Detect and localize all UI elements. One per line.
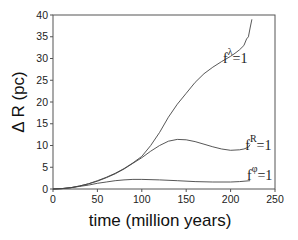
y-tick-label: 15 xyxy=(36,117,48,129)
curve-label-2: fφ=1 xyxy=(247,163,272,183)
y-tick-label: 5 xyxy=(42,161,48,173)
x-tick-label: 250 xyxy=(266,193,284,205)
curve-label-0: fλ=1 xyxy=(223,46,247,66)
y-axis-title: Δ R (pc) xyxy=(9,71,28,132)
y-tick-label: 25 xyxy=(36,74,48,86)
curve-series-0 xyxy=(53,19,252,189)
plot-border xyxy=(53,15,275,189)
y-axis-ticks: 0510152025303540 xyxy=(36,9,53,195)
x-tick-label: 0 xyxy=(50,193,56,205)
y-tick-label: 20 xyxy=(36,96,48,108)
curve-label-1: fR=1 xyxy=(245,133,271,153)
y-tick-label: 10 xyxy=(36,139,48,151)
x-tick-label: 200 xyxy=(222,193,240,205)
line-chart: 0510152025303540 050100150200250 fλ=1fR=… xyxy=(0,0,298,240)
curve-labels: fλ=1fR=1fφ=1 xyxy=(223,46,272,183)
curve-series-2 xyxy=(53,179,250,189)
x-tick-label: 50 xyxy=(92,193,104,205)
x-axis-title: time (million years) xyxy=(89,211,232,230)
y-tick-label: 30 xyxy=(36,52,48,64)
x-tick-label: 150 xyxy=(177,193,195,205)
y-tick-label: 35 xyxy=(36,30,48,42)
y-tick-label: 40 xyxy=(36,9,48,21)
plot-frame xyxy=(53,15,275,189)
y-tick-label: 0 xyxy=(42,183,48,195)
x-tick-label: 100 xyxy=(133,193,151,205)
plot-curves xyxy=(53,19,252,189)
x-axis-ticks: 050100150200250 xyxy=(50,189,284,205)
